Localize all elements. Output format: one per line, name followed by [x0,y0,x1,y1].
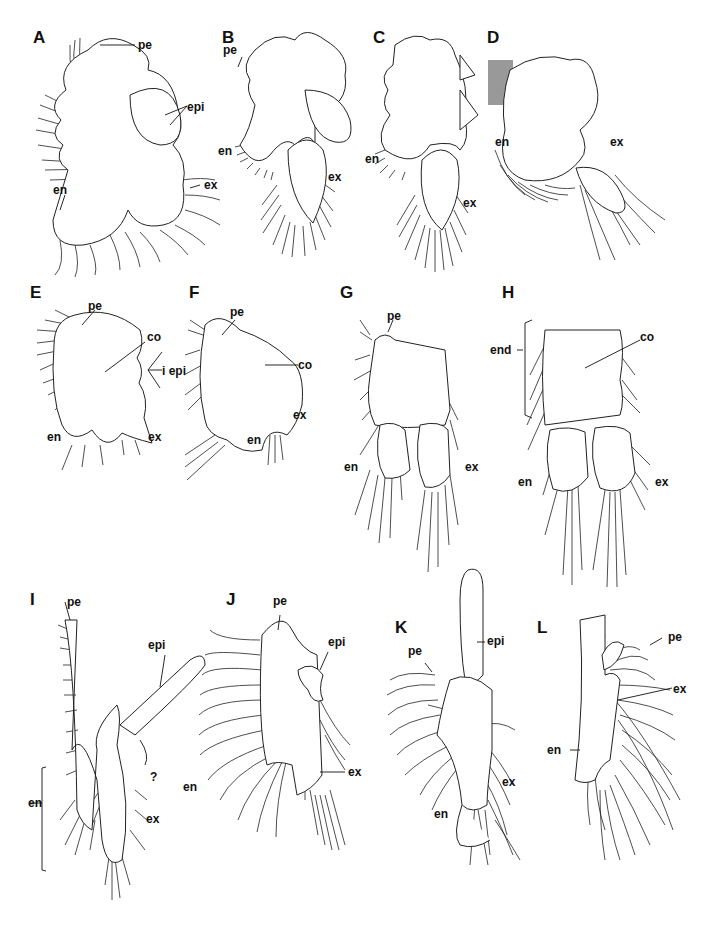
panel-d: D en ex [480,0,702,280]
panel-e: E pe co i epi en ex [0,280,180,490]
label-en: en [434,807,448,821]
label-co: co [640,330,654,344]
label-epi: epi [487,634,504,648]
label-en: en [365,152,379,166]
label-pe: pe [408,644,422,658]
label-pe: pe [88,299,102,313]
limb-drawing-k [380,560,540,890]
label-question: ? [150,770,157,784]
limb-drawing-c [360,0,500,280]
label-ex: ex [655,475,668,489]
label-en: en [218,144,232,158]
limb-drawing-g [330,280,490,580]
panel-l: L pe ex en [530,560,702,890]
label-ex: ex [328,170,341,184]
label-ex: ex [293,408,306,422]
label-ex: ex [673,682,686,696]
panel-a: A pe epi en ex [0,0,235,280]
label-en: en [547,743,561,757]
label-ex: ex [610,135,623,149]
label-pe: pe [138,38,152,52]
label-ex: ex [348,765,361,779]
label-en: en [53,183,67,197]
label-ex: ex [463,196,476,210]
limb-drawing-d [480,0,702,280]
panel-j: J pe epi en ex [180,590,370,941]
label-ex: ex [148,430,161,444]
limb-drawing-a [0,0,235,280]
limb-drawing-b [215,0,375,280]
label-pe: pe [668,630,682,644]
label-co: co [298,358,312,372]
label-en: en [344,460,358,474]
label-ex: ex [502,775,515,789]
label-epi: epi [148,638,165,652]
limb-drawing-f [180,280,330,490]
label-epi: epi [328,635,345,649]
panel-g: G pe en ex [330,280,490,580]
label-en: en [247,433,261,447]
label-pe: pe [230,305,244,319]
label-en: en [28,796,42,810]
label-epi: epi [187,100,204,114]
label-co: co [147,330,161,344]
label-pe: pe [223,43,237,57]
label-ex: ex [146,812,159,826]
limb-drawing-l [530,560,702,890]
label-en: en [47,430,61,444]
panel-b: B pe en ex [215,0,375,280]
label-ex: ex [465,460,478,474]
panel-f: F pe co ex en [180,280,330,490]
panel-k: K pe epi ex en [380,560,540,890]
label-en: en [495,135,509,149]
label-en: en [518,475,532,489]
label-pe: pe [273,594,287,608]
label-en: en [183,780,197,794]
panel-c: C en ex [360,0,500,280]
label-pe: pe [387,309,401,323]
label-end: end [490,343,511,357]
label-pe: pe [67,595,81,609]
